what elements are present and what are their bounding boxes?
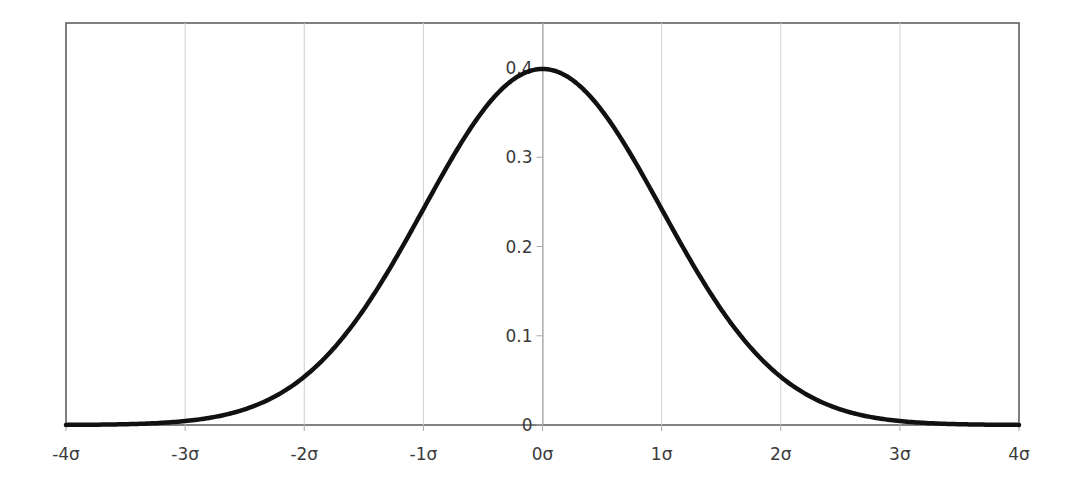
x-tick-label: -4σ <box>52 444 80 464</box>
x-tick-label: 2σ <box>770 444 792 464</box>
x-tick-label: 4σ <box>1008 444 1030 464</box>
y-tick-label: 0.2 <box>505 237 532 257</box>
x-tick-label: -1σ <box>410 444 438 464</box>
x-tick-label: 3σ <box>889 444 911 464</box>
x-tick-label: 1σ <box>651 444 673 464</box>
x-axis-ticks: -4σ-3σ-2σ-1σ0σ1σ2σ3σ4σ <box>52 425 1030 464</box>
normal-distribution-chart: 00.10.20.30.4 -4σ-3σ-2σ-1σ0σ1σ2σ3σ4σ <box>0 0 1092 484</box>
y-tick-label: 0.3 <box>505 147 532 167</box>
x-tick-label: -2σ <box>290 444 318 464</box>
y-tick-label: 0 <box>522 415 533 435</box>
y-tick-label: 0.1 <box>505 326 532 346</box>
x-tick-label: -3σ <box>171 444 199 464</box>
x-tick-label: 0σ <box>532 444 554 464</box>
